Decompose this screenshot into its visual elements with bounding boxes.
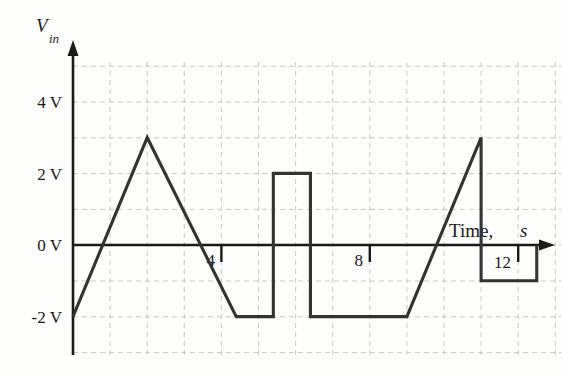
- y-tick-label-minus2v: -2 V: [32, 308, 63, 327]
- y-axis-arrowhead: [68, 40, 79, 56]
- y-axis-title: V in: [36, 15, 59, 46]
- x-axis-title-unit: s: [520, 220, 527, 241]
- x-tick-label-12: 12: [494, 253, 511, 272]
- y-tick-label-0v: 0 V: [37, 236, 62, 255]
- voltage-waveform-plot: 4 V 2 V 0 V -2 V 4 8 12 V in Time, s: [0, 0, 563, 375]
- y-axis-title-main: V: [36, 15, 50, 36]
- y-tick-label-4v: 4 V: [37, 93, 62, 112]
- figure-canvas: 4 V 2 V 0 V -2 V 4 8 12 V in Time, s: [0, 0, 563, 375]
- y-axis-title-subscript: in: [49, 31, 59, 46]
- x-axis: [73, 240, 555, 251]
- grid-lines: [73, 62, 561, 355]
- x-tick-marks: [221, 245, 518, 262]
- y-tick-label-2v: 2 V: [37, 165, 62, 184]
- x-tick-label-8: 8: [355, 251, 364, 270]
- x-axis-title-main: Time,: [449, 220, 493, 241]
- x-axis-title: Time, s: [449, 220, 527, 241]
- x-axis-arrowhead: [539, 240, 555, 251]
